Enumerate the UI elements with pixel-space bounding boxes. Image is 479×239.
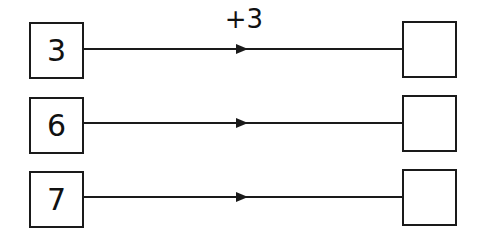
operation-label: +3 [222, 6, 266, 32]
arrow-right-icon [236, 44, 248, 54]
input-box-1: 3 [29, 22, 84, 79]
arrow-right-icon [236, 192, 248, 202]
output-box-2[interactable] [402, 95, 457, 152]
output-box-1[interactable] [402, 21, 457, 78]
output-box-3[interactable] [402, 169, 457, 226]
arrow-right-icon [236, 118, 248, 128]
input-box-2: 6 [29, 97, 84, 154]
input-box-3: 7 [29, 171, 84, 228]
